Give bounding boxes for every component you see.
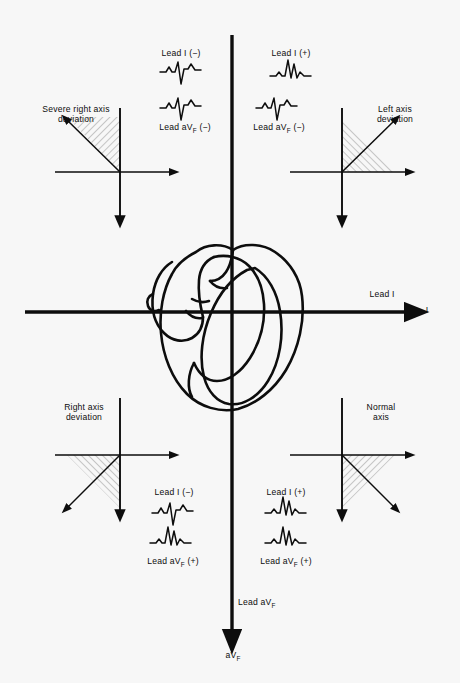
ecg-trace-upper-left-lead-i <box>160 62 201 84</box>
ecg-trace-lower-left-lead-avf <box>150 527 191 545</box>
lead-avf-label-lower-left: Lead aVF (+) <box>126 556 220 570</box>
ecg-trace-lower-left-lead-i <box>152 503 193 525</box>
ecg-trace-lower-right-lead-i <box>265 497 306 515</box>
main-lead-avf-sub: F <box>271 602 275 609</box>
lead-i-label-upper-right: Lead I (+) <box>250 48 332 58</box>
diagram-canvas <box>0 0 460 683</box>
main-lead-avf-pre: Lead a <box>238 597 266 607</box>
quadrant-label-upper-right: Left axis deviation <box>350 104 440 125</box>
lead-i-label-upper-left: Lead I (−) <box>140 48 222 58</box>
ll-avf-pre: Lead a <box>147 556 175 566</box>
lead-avf-label-upper-left: Lead aVF (−) <box>138 122 232 136</box>
lead-i-label-lower-right: Lead I (+) <box>245 487 327 497</box>
ul-avf-pre: Lead a <box>159 122 187 132</box>
quadrant-label-upper-left: Severe right axis deviation <box>24 104 128 125</box>
quadrant-label-lower-left: Right axis deviation <box>42 402 126 423</box>
main-axis-tip-avf-label: aVF <box>212 650 254 664</box>
lr-avf-pre: Lead a <box>260 556 288 566</box>
main-tip-avf-sub: F <box>236 655 240 662</box>
ul-avf-post: (−) <box>197 122 211 132</box>
ecg-trace-lower-right-lead-avf <box>265 527 306 545</box>
ll-avf-post: (+) <box>185 556 199 566</box>
lr-avf-post: (+) <box>298 556 312 566</box>
main-axis-tip-i-label: I <box>418 305 436 315</box>
main-lead-avf-label: Lead aVF <box>238 597 308 611</box>
quadrant-label-lower-right: Normal axis <box>345 402 417 423</box>
main-lead-i-label: Lead I <box>352 289 412 299</box>
ecg-trace-upper-right-lead-i <box>270 60 311 78</box>
lead-avf-label-lower-right: Lead aVF (+) <box>239 556 333 570</box>
lead-i-label-lower-left: Lead I (−) <box>133 487 215 497</box>
ecg-axis-diagram: Lead I I Lead aVF aVF Severe right axis … <box>0 0 460 683</box>
ecg-trace-upper-left-lead-avf <box>160 98 201 120</box>
heart-illustration <box>147 245 303 410</box>
lead-avf-label-upper-right: Lead aVF (−) <box>232 122 326 136</box>
ur-avf-post: (−) <box>291 122 305 132</box>
ecg-trace-upper-right-lead-avf <box>256 98 297 120</box>
ur-avf-pre: Lead a <box>253 122 281 132</box>
